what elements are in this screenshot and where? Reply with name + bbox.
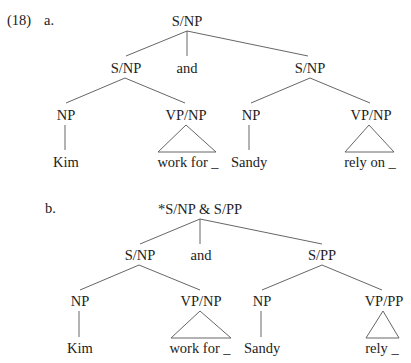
tree-b-conj: and <box>191 247 213 263</box>
edge <box>200 219 322 244</box>
edge <box>322 265 382 290</box>
edge <box>262 265 322 290</box>
tree-b-left-vp-word: work for _ <box>169 340 231 356</box>
tree-b-label: b. <box>45 200 56 216</box>
tree-b-left-np: NP <box>71 293 90 309</box>
tree-a-conj: and <box>177 60 199 76</box>
edge <box>187 31 308 56</box>
tree-a-right-vp: VP/NP <box>350 107 391 123</box>
tree-b: *S/NP & S/PP S/NP and S/PP NP VP/NP NP V… <box>67 201 403 356</box>
tree-b-left-node: S/NP <box>125 247 156 263</box>
tree-b-right-vp: VP/PP <box>365 293 404 309</box>
tree-a-left-node: S/NP <box>111 60 142 76</box>
tree-a-left-np-word: Kim <box>53 154 80 170</box>
tree-b-left-np-word: Kim <box>67 340 94 356</box>
edge <box>125 78 185 103</box>
edge <box>126 31 187 56</box>
tree-b-right-np-word: Sandy <box>244 340 281 356</box>
edge <box>66 78 125 103</box>
example-number: (18) <box>7 12 31 29</box>
tree-a-right-np: NP <box>242 107 261 123</box>
edge <box>310 78 370 103</box>
tree-b-left-vp: VP/NP <box>180 293 221 309</box>
tree-b-right-node: S/PP <box>308 247 336 263</box>
triangle-icon <box>345 125 394 152</box>
tree-a-label: a. <box>44 12 54 28</box>
tree-b-right-vp-word: rely _ <box>365 340 399 356</box>
tree-a: S/NP S/NP and S/NP NP VP/NP NP VP/NP Kim… <box>53 13 396 170</box>
triangle-icon <box>171 311 231 338</box>
tree-a-left-np: NP <box>57 107 76 123</box>
tree-a-right-vp-word: rely on _ <box>344 154 396 170</box>
tree-a-left-vp: VP/NP <box>165 107 206 123</box>
edge <box>251 78 310 103</box>
edge <box>80 265 139 290</box>
tree-a-right-np-word: Sandy <box>231 154 268 170</box>
tree-b-root: *S/NP & S/PP <box>158 201 242 217</box>
tree-a-right-node: S/NP <box>295 60 326 76</box>
triangle-icon <box>366 311 399 338</box>
syntax-tree-figure: (18) a. S/NP S/NP and S/NP NP VP/NP NP V… <box>0 0 411 363</box>
triangle-icon <box>158 125 216 152</box>
tree-a-root: S/NP <box>172 13 203 29</box>
tree-a-left-vp-word: work for _ <box>157 154 219 170</box>
tree-b-right-np: NP <box>253 293 272 309</box>
edge <box>139 265 200 290</box>
edge <box>140 219 200 244</box>
